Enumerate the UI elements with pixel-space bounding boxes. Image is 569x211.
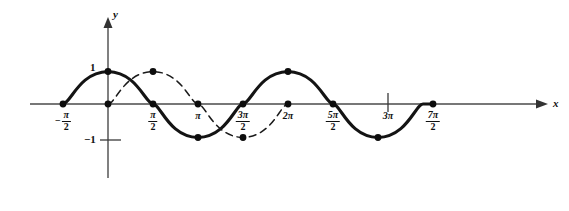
fraction-denominator: 2 — [148, 122, 157, 133]
fraction-numerator: 3π — [236, 110, 250, 122]
point-dot — [240, 101, 247, 108]
x-tick-label-pi: π — [195, 111, 200, 121]
y-axis-arrowhead — [104, 17, 113, 28]
fraction-numerator: π — [148, 110, 157, 122]
point-dot — [105, 68, 112, 75]
fraction: 3π 2 — [236, 110, 250, 132]
trig-graph-figure: y x 1 −1 − π 2 π 2 π 3π 2 2π 5π 2 3π 7π … — [0, 0, 569, 211]
x-tick-label-three-pi: 3π — [383, 111, 393, 121]
point-dot — [195, 134, 202, 141]
fraction: 5π 2 — [326, 110, 340, 132]
point-dot — [105, 101, 112, 108]
fraction-numerator: 7π — [426, 110, 440, 122]
point-dot — [60, 101, 67, 108]
axes-group — [30, 17, 548, 178]
x-axis-label: x — [553, 98, 559, 109]
fraction-denominator: 2 — [236, 122, 250, 133]
point-dot — [375, 134, 382, 141]
point-dot — [150, 68, 157, 75]
x-tick-label-two-pi: 2π — [283, 111, 293, 121]
x-tick-label-seven-half-pi: 7π 2 — [426, 110, 440, 132]
y-tick-label-one: 1 — [90, 62, 96, 73]
point-dot — [195, 101, 202, 108]
point-dot — [430, 101, 437, 108]
point-dot — [330, 101, 337, 108]
x-tick-label-neg-half-pi: − π 2 — [55, 110, 71, 132]
fraction-denominator: 2 — [426, 122, 440, 133]
graph-canvas — [0, 0, 569, 211]
fraction: 7π 2 — [426, 110, 440, 132]
fraction: π 2 — [148, 110, 157, 132]
y-tick-label-neg-one: −1 — [84, 134, 96, 145]
minus-sign: − — [55, 116, 62, 126]
x-axis-arrowhead — [536, 100, 548, 109]
fraction: π 2 — [62, 110, 71, 132]
x-tick-label-five-half-pi: 5π 2 — [326, 110, 340, 132]
x-tick-label-three-half-pi: 3π 2 — [236, 110, 250, 132]
fraction-numerator: π — [62, 110, 71, 122]
x-tick-label-half-pi: π 2 — [148, 110, 157, 132]
point-dot — [240, 134, 247, 141]
fraction-denominator: 2 — [62, 122, 71, 133]
point-dot — [150, 101, 157, 108]
point-dot — [285, 68, 292, 75]
fraction-numerator: 5π — [326, 110, 340, 122]
point-dot — [285, 101, 292, 108]
y-axis-label: y — [113, 9, 118, 20]
fraction-denominator: 2 — [326, 122, 340, 133]
